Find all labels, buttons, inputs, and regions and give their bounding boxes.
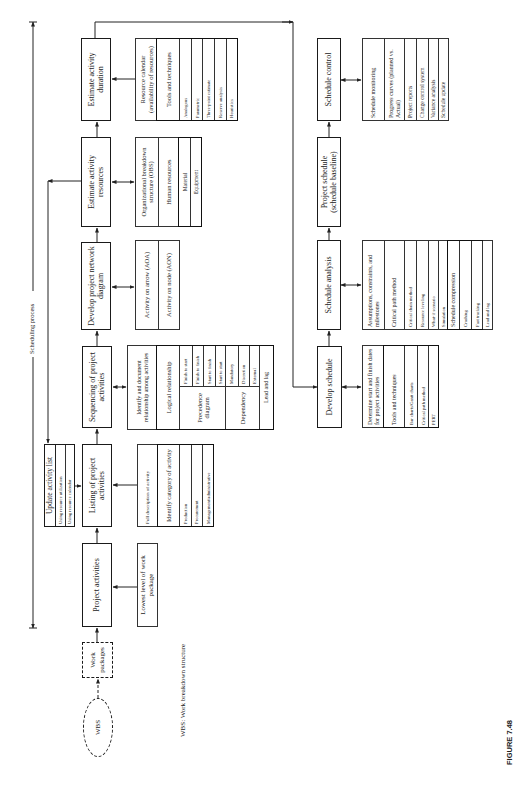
develop-schedule-tool-item: Critical path method <box>417 346 428 427</box>
network-method-cell: Activity on arrow (AOA) <box>136 241 158 329</box>
schedule-analysis-item: Critical chain method <box>404 241 416 329</box>
network-details-table: Activity on arrow (AOA) Activity on node… <box>135 240 180 330</box>
develop-schedule-tool-item: Bar charts/Gantt charts <box>404 346 417 427</box>
category-item: Production <box>179 445 191 526</box>
relationship-description-cell: Identify and document relationship among… <box>128 346 157 429</box>
precedence-item: Start to start <box>215 346 226 386</box>
develop-schedule-details-table: Determine start and finish dates for pro… <box>362 345 439 428</box>
determine-dates-cell: Determine start and finish dates for pro… <box>363 346 384 427</box>
develop-schedule-tool-item: PERT <box>428 346 438 427</box>
sequencing-activities-box: Sequencing of project activities <box>82 346 112 428</box>
dependency-item: Discretion <box>238 346 249 386</box>
project-activities-box: Project activities <box>82 543 112 627</box>
project-activities-label: Project activities <box>92 558 101 612</box>
resource-item: Equipment <box>190 138 201 226</box>
human-resources-cell: Human resources <box>158 138 179 226</box>
develop-schedule-box: Develop schedule <box>317 346 342 428</box>
update-list-item: Using resource calendar <box>65 445 74 526</box>
schedule-control-item: Variance analysis <box>428 39 438 120</box>
duration-tool-item: Heuristics <box>226 39 237 120</box>
category-item: Procurement <box>191 445 203 526</box>
figure-label: FIGURE 7.48 <box>506 720 514 765</box>
estimate-resources-box: Estimate activity resources <box>81 137 111 227</box>
update-list-item: Using resource utilization <box>56 445 65 526</box>
compression-item: Fast tracking <box>471 241 482 329</box>
full-description-cell: Full description of activity <box>138 445 158 526</box>
network-diagram-label: Develop project network diagram <box>87 246 105 326</box>
project-activities-details: Lowest level of work package <box>137 543 158 627</box>
develop-schedule-tools-group: Tools and techniques Bar charts/Gantt ch… <box>383 345 439 428</box>
schedule-control-item: Progress curves (planned vs. Actual) <box>384 39 404 120</box>
schedule-analysis-label: Schedule analysis <box>324 256 333 313</box>
listing-activities-label: Listing of project activities <box>88 448 106 523</box>
precedence-diagram-block: Precedence diagram Finish to start Finis… <box>179 346 225 429</box>
schedule-control-item: Schedule monitoring <box>363 39 384 120</box>
resource-calendar-cell: Resource calendar (availability of resou… <box>136 39 157 120</box>
wbs-footnote: WBS: Work breakdown structure <box>180 644 187 737</box>
category-item: Management/administrative <box>202 445 213 526</box>
network-method-cell: Activity on node (AON) <box>158 241 179 329</box>
material-equipment-group: Material Equipment <box>178 137 202 227</box>
work-packages-node: Work packages <box>82 642 113 678</box>
precedence-diagram-label: Precedence diagram <box>180 386 225 429</box>
logical-relationship-group: Logical relationship Precedence diagram … <box>156 345 274 430</box>
network-diagram-box: Develop project network diagram <box>81 242 111 330</box>
sequencing-activities-label: Sequencing of project activities <box>88 350 106 424</box>
precedence-item: Start to finish <box>203 346 215 386</box>
duration-tool-item: Three-point estimate <box>202 39 214 120</box>
rotated-figure-canvas: Scheduling process WBS: Work breakdown s… <box>0 0 518 793</box>
schedule-control-label: Schedule control <box>324 53 333 107</box>
duration-tool-item: Parametric <box>191 39 203 120</box>
resource-item: Material <box>179 138 190 226</box>
resources-details-table: Organizational breakdown structure (OBS)… <box>135 137 202 227</box>
dependency-item: Mandatory <box>226 346 237 386</box>
project-schedule-baseline-label: Project schedule (schedule baseline) <box>320 141 338 223</box>
wbs-label: WBS <box>94 720 102 735</box>
schedule-compression-group: Schedule compression Crashing Fast track… <box>447 240 483 330</box>
schedule-control-item: Change control system <box>416 39 428 120</box>
schedule-analysis-item: Critical path method <box>384 241 404 329</box>
schedule-compression-title: Schedule compression <box>448 241 459 329</box>
sequencing-details-table: Identify and document relationship among… <box>127 345 274 430</box>
lowest-level-cell: Lowest level of work package <box>138 544 157 626</box>
obs-cell: Organizational breakdown structure (OBS) <box>136 138 158 226</box>
duration-tools-title: Tools and techniques <box>157 39 179 120</box>
compression-item: Crashing <box>459 241 471 329</box>
schedule-control-box: Schedule control <box>317 38 341 121</box>
dependency-item: External <box>249 346 260 386</box>
update-activity-list-title: Update activity list <box>45 445 56 526</box>
listing-details-table: Full description of activity Identify ca… <box>137 444 214 527</box>
schedule-analysis-lead-lag-cell: Lead and lag <box>482 241 492 329</box>
schedule-analysis-item: What-if scenario <box>428 241 438 329</box>
category-title-cell: Identify category of activity <box>158 445 179 526</box>
precedence-item: Finish to start <box>180 346 192 386</box>
dependency-label: Dependency <box>226 386 259 429</box>
develop-schedule-tools-title: Tools and techniques <box>384 346 404 427</box>
duration-tool-item: Reserve analysis <box>214 39 226 120</box>
dependency-block: Dependency Mandatory Discretion External <box>225 346 259 429</box>
schedule-analysis-box: Schedule analysis <box>317 240 341 330</box>
schedule-control-item: Project reports <box>404 39 416 120</box>
work-packages-label: Work packages <box>89 644 105 676</box>
estimate-duration-box: Estimate activity duration <box>81 38 111 121</box>
duration-tools-group: Tools and techniques Analogous Parametri… <box>156 38 237 121</box>
update-activity-list-box: Update activity list Using resource util… <box>44 444 75 527</box>
duration-details-table: Resource calendar (availability of resou… <box>135 38 238 121</box>
schedule-control-details-table: Schedule monitoring Progress curves (pla… <box>362 38 449 121</box>
logical-relationship-cell: Logical relationship <box>157 346 179 429</box>
wbs-node: WBS <box>83 698 113 757</box>
scheduling-process-label: Scheduling process <box>29 302 36 356</box>
estimate-resources-label: Estimate activity resources <box>87 141 105 223</box>
precedence-item: Finish to finish <box>192 346 204 386</box>
project-schedule-baseline-box: Project schedule (schedule baseline) <box>317 137 341 227</box>
listing-activities-box: Listing of project activities <box>82 444 112 527</box>
duration-tool-item: Analogous <box>179 39 191 120</box>
schedule-control-item: Schedule update <box>438 39 448 120</box>
develop-schedule-label: Develop schedule <box>325 358 334 415</box>
estimate-duration-label: Estimate activity duration <box>87 42 105 117</box>
schedule-analysis-item: Assumptions, constraints, and milestones <box>363 241 384 329</box>
schedule-analysis-details-table: Assumptions, constraints, and milestones… <box>362 240 493 330</box>
activity-category-group: Identify category of activity Production… <box>157 444 214 527</box>
schedule-analysis-item: Resource leveling <box>416 241 428 329</box>
lead-and-lag-cell: Lead and lag <box>259 346 273 429</box>
